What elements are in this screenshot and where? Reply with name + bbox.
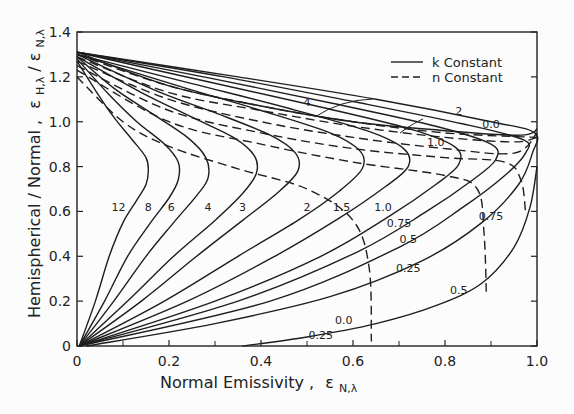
legend-label-n: n Constant xyxy=(432,70,503,85)
emissivity-chart: 00.20.40.60.81.0 00.20.40.60.81.01.21.4 … xyxy=(0,0,574,414)
curve-label: 3 xyxy=(239,201,246,214)
x-tick-label: 0.6 xyxy=(342,353,364,369)
x-tick-label: 0.4 xyxy=(250,353,272,369)
curve-label: 8 xyxy=(145,201,152,214)
curve-label: 0.5 xyxy=(399,233,417,246)
curve-label: 4 xyxy=(304,96,311,109)
y-axis-title: Hemispherical / Normal , ε H,λ / ε N,λ xyxy=(25,29,48,318)
curve-label: 0.25 xyxy=(309,329,334,342)
y-tick-label: 0 xyxy=(62,338,71,354)
curve-label: 0.25 xyxy=(396,262,421,275)
curve-label: 0.75 xyxy=(387,217,412,230)
curve-label: 1.0 xyxy=(427,136,445,149)
x-tick-label: 0 xyxy=(73,353,82,369)
curve-label: 1.5 xyxy=(333,201,351,214)
y-tick-label: 1.0 xyxy=(49,114,71,130)
curve-label: 0.0 xyxy=(482,118,500,131)
x-axis: 00.20.40.60.81.0 xyxy=(73,340,549,369)
curve-labels: 12864321.51.00.750.50.250.00.0421.00.750… xyxy=(111,96,503,342)
y-tick-label: 0.6 xyxy=(49,203,71,219)
legend-label-k: k Constant xyxy=(432,55,502,70)
legend: k Constant n Constant xyxy=(391,55,503,85)
y-tick-label: 1.4 xyxy=(49,24,71,40)
y-tick-label: 0.4 xyxy=(49,248,71,264)
x-tick-label: 1.0 xyxy=(526,353,548,369)
y-tick-label: 0.2 xyxy=(49,293,71,309)
curve-label: 2 xyxy=(455,105,462,118)
x-axis-title: Normal Emissivity , ε N,λ xyxy=(160,373,358,395)
curve-label: 2 xyxy=(304,201,311,214)
curve-label: 1.0 xyxy=(374,201,392,214)
curve-label: 6 xyxy=(168,201,175,214)
k-constant-curve xyxy=(77,59,180,346)
curve-label: 0.0 xyxy=(335,314,353,327)
y-tick-label: 0.8 xyxy=(49,159,71,175)
curve-label: 0.5 xyxy=(450,284,468,297)
x-tick-label: 0.8 xyxy=(434,353,456,369)
curve-label: 12 xyxy=(111,201,125,214)
k-constant-curve xyxy=(243,167,537,346)
curve-label: 4 xyxy=(205,201,212,214)
x-tick-label: 0.2 xyxy=(158,353,180,369)
curve-label: 0.75 xyxy=(479,210,504,223)
y-tick-label: 1.2 xyxy=(49,69,71,85)
